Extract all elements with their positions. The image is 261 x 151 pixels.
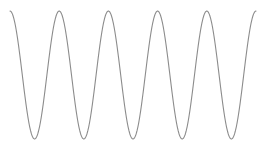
wave-line bbox=[10, 11, 256, 139]
sine-wave-chart bbox=[0, 0, 261, 151]
